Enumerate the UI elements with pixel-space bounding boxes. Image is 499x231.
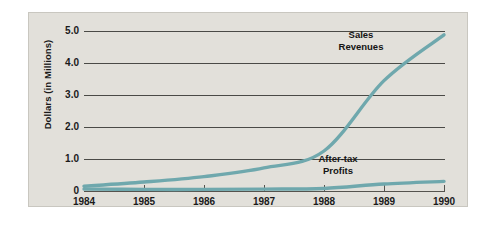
chart-figure: Dollars (in Millions) 5.0 4.0 3.0 2.0 1.… (0, 0, 499, 231)
series-label-after-tax-profits: After-tax Profits (297, 153, 379, 177)
series-label-profits-line2: Profits (297, 165, 379, 177)
series-label-sales-revenues: Sales Revenues (323, 29, 399, 53)
series-label-sales-line1: Sales (323, 29, 399, 41)
series-sales-revenues-line (84, 35, 444, 186)
plot-area: Dollars (in Millions) 5.0 4.0 3.0 2.0 1.… (29, 13, 469, 208)
chart-panel: Dollars (in Millions) 5.0 4.0 3.0 2.0 1.… (28, 12, 468, 207)
series-label-profits-line1: After-tax (297, 153, 379, 165)
data-curves (29, 13, 469, 208)
series-label-sales-line2: Revenues (323, 41, 399, 53)
